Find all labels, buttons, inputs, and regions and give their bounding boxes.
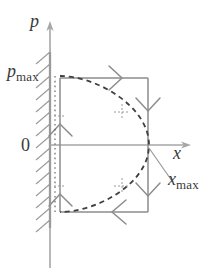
- p-axis-label: p: [30, 12, 39, 30]
- figure-canvas: [0, 0, 217, 273]
- physics-figure: p pmax 0 x xmax: [0, 0, 217, 273]
- p-max-label: pmax: [7, 62, 39, 80]
- x-max-label: xmax: [168, 170, 199, 188]
- x-axis-label: x: [173, 144, 181, 162]
- elliptical-path: [60, 76, 149, 212]
- curve-tick-marks: [54, 104, 130, 194]
- x-axis: [50, 141, 191, 148]
- origin-label: 0: [21, 136, 30, 154]
